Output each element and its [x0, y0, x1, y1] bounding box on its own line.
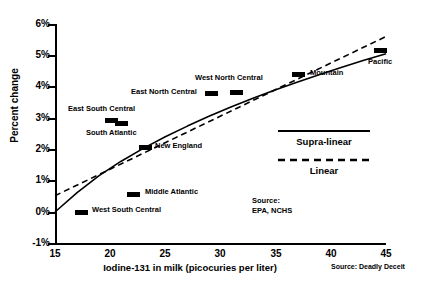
data-point-marker — [374, 48, 387, 53]
data-point-marker — [75, 210, 88, 215]
data-point-marker — [205, 91, 218, 96]
legend-swatch-supra-linear — [278, 130, 370, 132]
data-point-label: New England — [155, 141, 202, 150]
source-note: Source: EPA, NCHS — [252, 196, 292, 215]
data-point-marker — [127, 192, 140, 197]
data-point-marker — [115, 121, 128, 126]
legend-label-linear: Linear — [278, 165, 370, 176]
data-point-label: Middle Atlantic — [145, 187, 198, 196]
data-point-label: East South Central — [68, 104, 135, 113]
legend-swatch-linear — [278, 158, 370, 162]
data-point-label: Pacific — [368, 57, 392, 66]
data-point-marker — [292, 72, 305, 77]
data-point-label: Mountain — [310, 68, 343, 77]
data-point-marker — [230, 90, 243, 95]
chart-container: 6% 5% 4% 3% 2% 1% 0% -1% 15 20 25 30 35 … — [0, 0, 429, 282]
data-point-label: West South Central — [92, 205, 161, 214]
data-point-label: South Atlantic — [86, 128, 137, 137]
credit-note: Source: Deadly Deceit — [331, 262, 405, 271]
data-point-label: East North Central — [131, 87, 197, 96]
data-point-marker — [139, 145, 152, 150]
legend-label-supra-linear: Supra-linear — [278, 136, 370, 147]
data-point-label: West North Central — [195, 73, 263, 82]
